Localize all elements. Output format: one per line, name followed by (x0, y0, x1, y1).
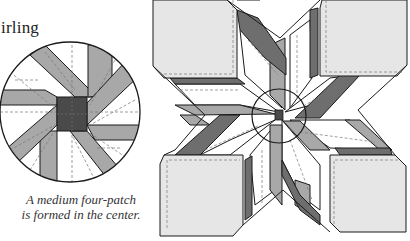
corner-square-bottom-right (330, 155, 406, 232)
corner-square-top-left (153, 0, 237, 78)
caption-line-2: is formed in the center. (6, 207, 156, 222)
caption-line-1: A medium four-patch (6, 192, 156, 207)
corner-square-bottom-left (160, 155, 243, 236)
corner-square-top-right (320, 0, 407, 76)
center-square (275, 110, 283, 120)
caption: A medium four-patch is formed in the cen… (6, 192, 156, 222)
detail-circle (0, 40, 145, 190)
